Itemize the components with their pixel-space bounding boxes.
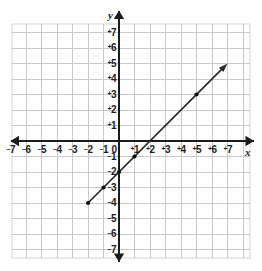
- x-tick-label: +3: [162, 145, 171, 155]
- data-point: [194, 92, 198, 96]
- data-point: [101, 185, 105, 189]
- tick-value: 4: [181, 144, 186, 155]
- x-axis-label: x: [245, 147, 251, 158]
- tick-value: 5: [111, 213, 116, 224]
- tick-value: 7: [111, 244, 116, 255]
- tick-value: 2: [111, 104, 116, 115]
- x-tick-label: –2: [84, 145, 93, 155]
- tick-value: 5: [41, 144, 46, 155]
- tick-value: 6: [25, 144, 30, 155]
- x-tick-label: –6: [22, 145, 31, 155]
- tick-value: 1: [111, 120, 116, 131]
- tick-value: 1: [134, 144, 139, 155]
- y-tick-label: –6: [108, 229, 117, 239]
- y-tick-label: +7: [108, 28, 117, 38]
- x-tick-label: +2: [146, 145, 155, 155]
- tick-value: 7: [111, 27, 116, 38]
- y-tick-label: +2: [108, 105, 117, 115]
- graph-canvas: [0, 0, 262, 271]
- tick-value: 3: [111, 182, 116, 193]
- tick-value: 3: [165, 144, 170, 155]
- tick-value: 3: [72, 144, 77, 155]
- tick-value: 5: [111, 58, 116, 69]
- y-tick-label: +3: [108, 90, 117, 100]
- x-tick-label: –3: [69, 145, 78, 155]
- y-tick-label: +4: [108, 74, 117, 84]
- data-point: [86, 201, 90, 205]
- coordinate-plane-figure: y x –7–6–5–4–3–2–1+1+2+3+4+5+6+7+7+6+5+4…: [0, 0, 262, 271]
- y-tick-label: +6: [108, 43, 117, 53]
- tick-value: 7: [10, 144, 15, 155]
- x-tick-label: –5: [38, 145, 47, 155]
- tick-value: 6: [111, 42, 116, 53]
- y-tick-label: –4: [108, 198, 117, 208]
- x-tick-label: +1: [131, 145, 140, 155]
- y-tick-label: +5: [108, 59, 117, 69]
- tick-value: 4: [111, 197, 116, 208]
- tick-value: 6: [111, 228, 116, 239]
- data-point: [117, 170, 121, 174]
- y-tick-label: –3: [108, 183, 117, 193]
- x-tick-label: +7: [224, 145, 233, 155]
- x-tick-label: +4: [177, 145, 186, 155]
- x-tick-label: –4: [53, 145, 62, 155]
- tick-value: 7: [227, 144, 232, 155]
- tick-value: 2: [111, 166, 116, 177]
- y-axis-arrow-up: [114, 11, 124, 20]
- tick-value: 6: [212, 144, 217, 155]
- tick-value: 2: [150, 144, 155, 155]
- x-tick-label: +5: [193, 145, 202, 155]
- y-tick-label: –7: [108, 245, 117, 255]
- tick-value: 4: [56, 144, 61, 155]
- tick-value: 5: [196, 144, 201, 155]
- tick-value: 2: [87, 144, 92, 155]
- x-tick-label: +6: [208, 145, 217, 155]
- y-tick-label: –5: [108, 214, 117, 224]
- tick-value: 3: [111, 89, 116, 100]
- origin-label: 0: [112, 145, 117, 155]
- y-axis-label: y: [108, 10, 113, 21]
- tick-value: 4: [111, 73, 116, 84]
- y-tick-label: –2: [108, 167, 117, 177]
- x-tick-label: –7: [7, 145, 16, 155]
- y-tick-label: +1: [108, 121, 117, 131]
